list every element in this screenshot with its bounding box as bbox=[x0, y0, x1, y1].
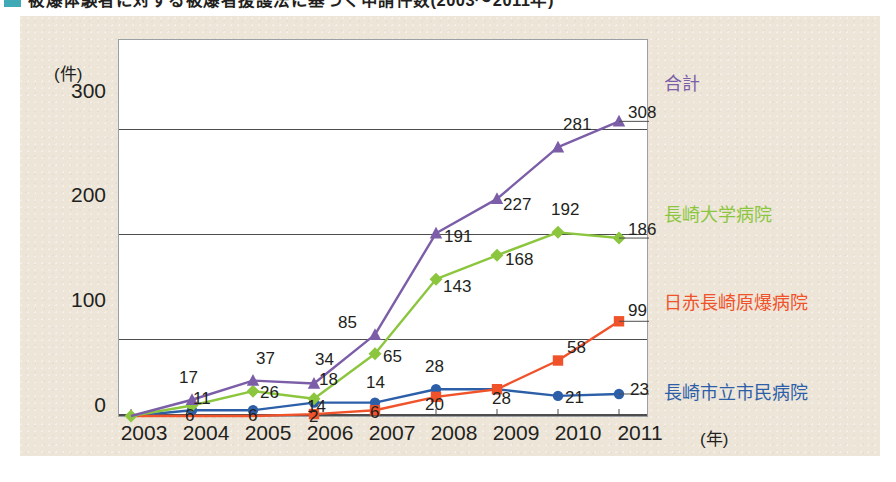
data-point-value-label: 192 bbox=[551, 200, 579, 220]
data-point-value-label: 65 bbox=[383, 347, 402, 367]
data-point-value-label: 21 bbox=[565, 388, 584, 408]
data-point-marker bbox=[247, 385, 260, 398]
data-point-value-label: 23 bbox=[630, 380, 649, 400]
data-point-value-label: 85 bbox=[338, 313, 357, 333]
data-point-value-label: 227 bbox=[503, 195, 531, 215]
title-bullet-icon bbox=[4, 0, 21, 7]
data-point-value-label: 28 bbox=[492, 389, 511, 409]
data-point-value-label: 26 bbox=[260, 383, 279, 403]
data-point-marker bbox=[491, 249, 504, 262]
data-point-value-label: 6 bbox=[185, 406, 194, 426]
data-point-value-label: 14 bbox=[307, 397, 326, 417]
data-point-marker bbox=[552, 226, 565, 239]
x-axis-unit-label: (年) bbox=[700, 425, 728, 450]
data-point-value-label: 28 bbox=[425, 357, 444, 377]
data-point-value-label: 191 bbox=[444, 227, 472, 247]
x-tick-2011: 2011 bbox=[590, 421, 690, 445]
series-label-total: 合計 bbox=[664, 69, 700, 95]
data-point-marker bbox=[369, 328, 381, 340]
data-point-value-label: 281 bbox=[563, 115, 591, 135]
page-bottom-strip bbox=[0, 456, 896, 482]
data-point-value-label: 14 bbox=[366, 373, 385, 393]
data-point-value-label: 168 bbox=[505, 250, 533, 270]
data-point-marker bbox=[553, 391, 563, 401]
data-point-value-label: 11 bbox=[193, 389, 211, 409]
data-point-value-label: 37 bbox=[256, 349, 275, 369]
data-point-marker bbox=[613, 115, 625, 127]
data-point-value-label: 143 bbox=[443, 277, 471, 297]
series-label-nagasaki-university-hospital: 長崎大学病院 bbox=[664, 200, 772, 226]
data-point-marker bbox=[553, 355, 563, 365]
y-tick-200: 200 bbox=[42, 183, 106, 207]
data-point-value-label: 186 bbox=[628, 220, 656, 240]
data-point-value-label: 18 bbox=[319, 370, 338, 390]
data-point-value-label: 99 bbox=[628, 301, 647, 321]
data-point-value-label: 6 bbox=[370, 403, 379, 423]
y-tick-300: 300 bbox=[42, 79, 106, 103]
data-point-marker bbox=[430, 227, 442, 239]
data-point-value-label: 308 bbox=[628, 103, 656, 123]
screenshot-root: 被爆体験者に対する被爆者援護法に基づく申請件数(2003〜2011年) (件) … bbox=[0, 0, 896, 482]
data-point-value-label: 58 bbox=[567, 338, 586, 358]
figure-title-bar: 被爆体験者に対する被爆者援護法に基づく申請件数(2003〜2011年) bbox=[0, 0, 896, 14]
data-point-value-label: 20 bbox=[425, 395, 444, 415]
data-point-value-label: 6 bbox=[248, 406, 257, 426]
y-tick-0: 0 bbox=[42, 393, 106, 417]
series-label-red-cross-nagasaki-abomb-hospital: 日赤長崎原爆病院 bbox=[664, 288, 808, 314]
data-point-value-label: 17 bbox=[179, 368, 198, 388]
data-point-value-label: 34 bbox=[315, 350, 334, 370]
y-tick-100: 100 bbox=[42, 288, 106, 312]
figure-title: 被爆体験者に対する被爆者援護法に基づく申請件数(2003〜2011年) bbox=[28, 0, 554, 11]
series-label-nagasaki-municipal-citizens-hospital: 長崎市立市民病院 bbox=[664, 378, 808, 404]
